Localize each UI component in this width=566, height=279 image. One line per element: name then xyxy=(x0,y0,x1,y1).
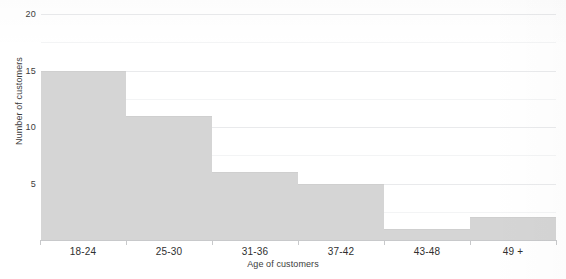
x-tick-label-37-42: 37-42 xyxy=(296,246,386,257)
bar-25-30 xyxy=(126,116,212,240)
bar-37-42 xyxy=(298,184,384,241)
x-tick-mark xyxy=(384,240,385,245)
y-axis-title: Number of customers xyxy=(14,36,24,166)
histogram-chart: 2015105 Number of customers 18-2425-3031… xyxy=(0,0,566,279)
x-tick-label-49: 49 + xyxy=(468,246,558,257)
bar-43-48 xyxy=(384,229,470,240)
x-tick-label-31-36: 31-36 xyxy=(210,246,300,257)
y-axis-line xyxy=(40,14,41,241)
y-tick-label-20: 20 xyxy=(2,9,36,19)
bar-49 xyxy=(470,217,556,240)
x-tick-mark xyxy=(40,240,41,245)
bars-group xyxy=(40,14,556,240)
x-tick-mark xyxy=(126,240,127,245)
x-tick-label-18-24: 18-24 xyxy=(38,246,128,257)
x-tick-mark xyxy=(212,240,213,245)
x-tick-label-43-48: 43-48 xyxy=(382,246,472,257)
x-axis-title: Age of customers xyxy=(0,259,566,269)
bar-31-36 xyxy=(212,172,298,240)
x-tick-mark xyxy=(556,240,557,245)
y-tick-label-5: 5 xyxy=(2,179,36,189)
x-tick-mark xyxy=(470,240,471,245)
bar-18-24 xyxy=(40,71,126,241)
plot-area xyxy=(40,14,556,240)
x-tick-label-25-30: 25-30 xyxy=(124,246,214,257)
x-tick-mark xyxy=(298,240,299,245)
